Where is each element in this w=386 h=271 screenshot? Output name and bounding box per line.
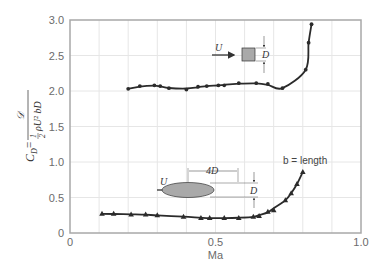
data-point-circle-icon (158, 84, 162, 88)
data-point-circle-icon (167, 86, 171, 90)
y-tick-2.5: 2.5 (49, 50, 64, 62)
y-axis-label: C D = 𝒟 1 2 ρU² bD (15, 90, 47, 162)
data-point-circle-icon (152, 83, 156, 87)
data-point-circle-icon (196, 85, 200, 89)
data-point-circle-icon (222, 83, 226, 87)
x-tick-1.0: 1.0 (353, 236, 368, 248)
y-tick-0.5: 0.5 (49, 192, 64, 204)
y-tick-0: 0 (58, 227, 64, 239)
square-flow-u-label: U (215, 42, 223, 53)
y-tick-1.0: 1.0 (49, 156, 64, 168)
y-tick-2.0: 2.0 (49, 85, 64, 97)
data-point-circle-icon (281, 86, 285, 90)
ellipse-inset-diagram: U 4D D (157, 165, 258, 208)
data-point-triangle-icon (300, 169, 306, 174)
x-axis-label: Ma (208, 249, 224, 261)
ellipse-d-label: D (249, 185, 258, 196)
square-d-label: D (261, 49, 270, 60)
data-point-circle-icon (307, 41, 311, 45)
data-point-circle-icon (304, 68, 308, 72)
y-label-cd-sub: D (30, 148, 39, 155)
y-label-numerator: 𝒟 (15, 110, 26, 120)
y-tick-1.5: 1.5 (49, 121, 64, 133)
square-body-icon (242, 48, 255, 61)
data-point-circle-icon (126, 87, 130, 91)
b-length-note: b = length (283, 155, 327, 166)
x-tick-0: 0 (67, 236, 73, 248)
y-tick-labels: 0 0.5 1.0 1.5 2.0 2.5 3.0 (49, 14, 64, 239)
y-label-eq: = (23, 142, 35, 148)
y-label-denominator: ρU² bD (32, 100, 43, 132)
square-cylinder-markers (126, 22, 313, 91)
data-point-circle-icon (254, 81, 258, 85)
data-point-circle-icon (185, 88, 189, 92)
y-label-one: 1 (29, 134, 38, 138)
x-tick-labels: 0 0.5 1.0 (67, 236, 369, 248)
ellipse-4d-label: 4D (206, 165, 219, 176)
y-label-two: 2 (38, 134, 47, 138)
y-tick-3.0: 3.0 (49, 14, 64, 26)
square-inset-diagram: U D (212, 36, 270, 73)
data-point-circle-icon (310, 22, 314, 26)
data-point-circle-icon (217, 83, 221, 87)
square-cylinder-curve (128, 24, 311, 89)
data-point-circle-icon (266, 82, 270, 86)
data-point-circle-icon (237, 81, 241, 85)
ellipse-body-icon (162, 183, 214, 198)
data-point-circle-icon (138, 84, 142, 88)
data-point-circle-icon (205, 84, 209, 88)
x-tick-0.5: 0.5 (208, 236, 223, 248)
drag-coefficient-chart: 0 0.5 1.0 1.5 2.0 2.5 3.0 0 0.5 1.0 Ma C… (0, 0, 386, 271)
